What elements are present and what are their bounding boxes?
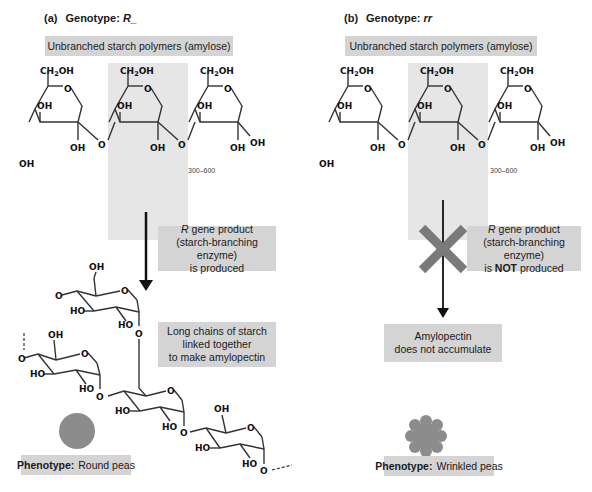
phenotype-box-b: Phenotype:Wrinkled peas — [384, 456, 494, 476]
phenotype-value: Wrinkled peas — [436, 460, 502, 473]
wrinkled-pea-icon — [0, 0, 592, 492]
phenotype-label: Phenotype: — [375, 460, 432, 473]
